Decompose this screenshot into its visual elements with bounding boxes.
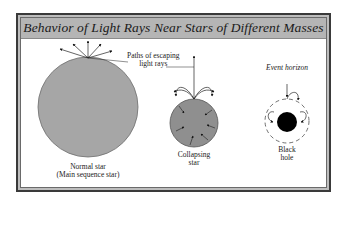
escaping-paths-line2: light rays [127,60,180,68]
normal-star-label-line2: (Main sequence star) [48,171,128,179]
collapsing-star-label-line2: star [169,159,219,167]
black-hole-label-line2: hole [267,154,307,162]
collapsing-star-label: Collapsing star [169,151,219,167]
normal-star-icon [38,41,138,157]
black-hole-label: Black hole [267,146,307,162]
event-horizon-label: Event horizon [263,64,311,72]
black-hole-icon [265,84,309,143]
normal-star-label: Normal star (Main sequence star) [48,163,128,179]
collapsing-star-icon [166,56,218,147]
escaping-paths-label: Paths of escaping light rays [127,52,180,68]
